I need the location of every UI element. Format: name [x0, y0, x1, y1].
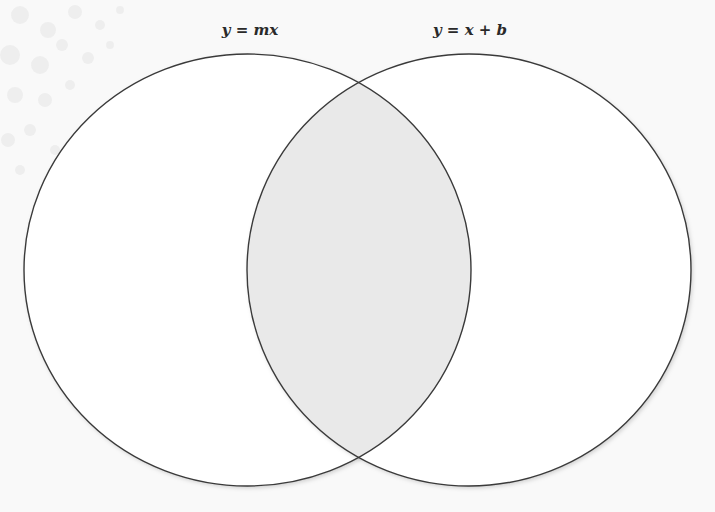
venn-svg: [0, 0, 715, 512]
set-right-label: y = x + b: [433, 21, 507, 39]
venn-diagram-page: · · · · y = mx y = x + b: [0, 0, 715, 512]
set-left-label: y = mx: [222, 21, 279, 39]
